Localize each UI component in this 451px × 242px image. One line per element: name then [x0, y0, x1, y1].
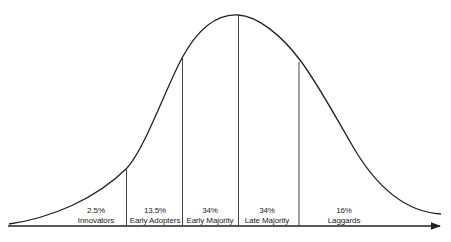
segment-pct: 13.5% [130, 206, 181, 216]
segment-name: Early Adopters [130, 216, 181, 226]
segment-pct: 16% [328, 206, 361, 216]
segment-name: Early Majority [186, 216, 233, 226]
segment-name: Late Majority [245, 216, 290, 226]
segment-label-late-majority: 34% Late Majority [245, 206, 290, 226]
segment-label-early-adopters: 13.5% Early Adopters [130, 206, 181, 226]
segment-label-laggards: 16% Laggards [328, 206, 361, 226]
segment-label-innovators: 2.5% Innovators [78, 206, 114, 226]
segment-pct: 2.5% [78, 206, 114, 216]
segment-pct: 34% [245, 206, 290, 216]
segment-name: Innovators [78, 216, 114, 226]
segment-pct: 34% [186, 206, 233, 216]
bell-curve [9, 15, 441, 224]
segment-name: Laggards [328, 216, 361, 226]
segment-label-early-majority: 34% Early Majority [186, 206, 233, 226]
